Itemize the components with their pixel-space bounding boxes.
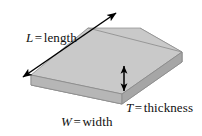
width-label: W=width: [61, 115, 113, 128]
width-word: width: [82, 114, 112, 129]
block-dimensions-figure: L=length T=thickness W=width: [0, 0, 202, 136]
length-word: length: [44, 30, 77, 45]
thickness-equals: =: [133, 100, 143, 115]
width-symbol: W: [61, 114, 72, 129]
thickness-word: thickness: [144, 100, 193, 115]
width-equals: =: [72, 114, 82, 129]
thickness-label: T=thickness: [126, 101, 193, 114]
length-equals: =: [33, 30, 43, 45]
length-label: L=length: [26, 31, 77, 44]
